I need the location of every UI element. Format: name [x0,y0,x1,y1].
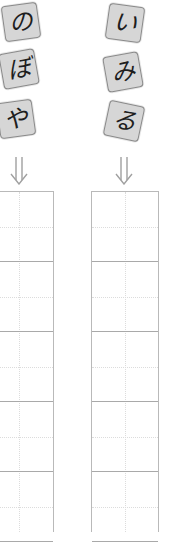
grid-cell[interactable] [0,472,53,542]
grid-half-guide [0,367,53,368]
grid-cell[interactable] [0,192,53,262]
tile-glyph: い [111,9,138,36]
grid-cell[interactable] [92,262,158,332]
grid-cell[interactable] [0,332,53,402]
tile-mi[interactable]: み [102,51,144,93]
tile-glyph: み [109,58,137,86]
tile-ya[interactable]: や [0,99,36,140]
grid-half-guide [0,507,53,508]
grid-cell[interactable] [92,402,158,472]
writing-grid-right[interactable] [91,191,159,532]
double-down-arrow-icon [114,157,134,185]
tile-ru[interactable]: る [103,100,146,143]
grid-half-guide [0,297,53,298]
grid-half-guide [92,437,158,438]
writing-grid-left[interactable] [0,191,54,532]
double-down-arrow-icon [9,157,29,185]
tile-glyph: ぼ [5,55,33,83]
tile-glyph: る [110,107,138,135]
grid-half-guide [0,437,53,438]
grid-cell[interactable] [0,262,53,332]
grid-half-guide [92,367,158,368]
grid-cell[interactable] [92,192,158,262]
grid-cell[interactable] [0,402,53,472]
tile-bo[interactable]: ぼ [0,48,40,90]
tile-no[interactable]: の [1,2,42,43]
tile-i[interactable]: い [105,3,146,44]
grid-half-guide [92,227,158,228]
grid-half-guide [0,227,53,228]
grid-half-guide [92,507,158,508]
grid-cell[interactable] [92,332,158,402]
grid-cell[interactable] [92,472,158,542]
grid-half-guide [92,297,158,298]
tile-glyph: の [7,8,34,35]
tile-glyph: や [2,105,29,132]
